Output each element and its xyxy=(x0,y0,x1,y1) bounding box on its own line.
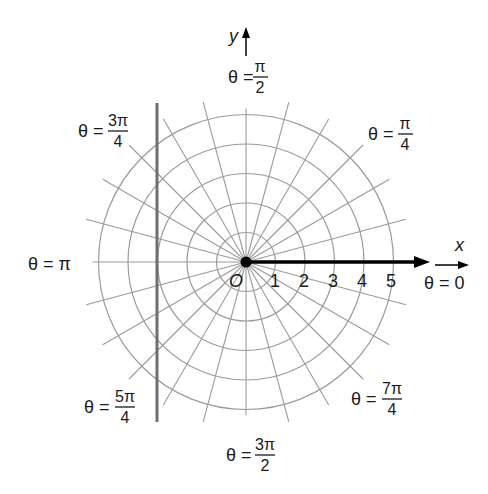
svg-text:π: π xyxy=(254,58,265,75)
angle-label-0: θ = 0 xyxy=(424,273,465,293)
grid-spoke-75deg xyxy=(246,102,289,262)
grid-spoke-60deg xyxy=(246,119,329,262)
angle-label-7pi-over-4: θ = 7π 4 xyxy=(351,380,402,418)
y-axis-arrow xyxy=(242,27,250,56)
tick-label-1: 1 xyxy=(270,271,280,291)
svg-text:5π: 5π xyxy=(115,388,135,405)
x-axis-label: x xyxy=(454,235,465,255)
svg-text:3π: 3π xyxy=(108,112,128,129)
grid-spoke-210deg xyxy=(103,262,246,345)
grid-spoke-15deg xyxy=(246,219,406,262)
angle-label-pi-over-2: θ = π 2 xyxy=(228,58,268,96)
grid-spoke-135deg xyxy=(129,145,246,262)
origin-label: O xyxy=(229,271,243,291)
svg-text:4: 4 xyxy=(114,133,123,150)
svg-text:4: 4 xyxy=(121,409,130,426)
polar-coordinate-diagram: y x O 1 2 3 4 5 θ = 0 θ = π θ = π 2 θ = … xyxy=(0,0,488,494)
grid-spoke-45deg xyxy=(246,145,363,262)
svg-text:θ =: θ = xyxy=(368,124,394,144)
angle-label-pi-over-4: θ = π 4 xyxy=(368,115,413,153)
svg-text:3π: 3π xyxy=(255,436,275,453)
angle-label-3pi-over-4: θ = 3π 4 xyxy=(78,112,128,150)
svg-text:π: π xyxy=(399,115,410,132)
tick-label-2: 2 xyxy=(299,271,309,291)
grid-spoke-300deg xyxy=(246,262,329,405)
svg-text:θ =: θ = xyxy=(84,397,110,417)
grid-spoke-30deg xyxy=(246,179,389,262)
svg-text:2: 2 xyxy=(261,457,270,474)
svg-text:θ = 0: θ = 0 xyxy=(424,273,465,293)
svg-text:θ =: θ = xyxy=(78,121,104,141)
tick-label-4: 4 xyxy=(357,271,367,291)
grid-spoke-150deg xyxy=(103,179,246,262)
y-axis-label: y xyxy=(227,26,239,46)
svg-text:θ = π: θ = π xyxy=(28,254,71,274)
grid-spoke-285deg xyxy=(246,262,289,422)
x-axis-arrow xyxy=(435,261,469,269)
svg-text:4: 4 xyxy=(388,401,397,418)
svg-text:θ =: θ = xyxy=(351,389,377,409)
polar-axis xyxy=(246,256,430,268)
svg-text:7π: 7π xyxy=(382,380,402,397)
grid-spoke-330deg xyxy=(246,262,389,345)
svg-text:θ =: θ = xyxy=(228,67,254,87)
pole-point xyxy=(241,257,252,268)
grid-spoke-120deg xyxy=(163,119,246,262)
angle-label-5pi-over-4: θ = 5π 4 xyxy=(84,388,135,426)
tick-label-5: 5 xyxy=(386,271,396,291)
svg-text:θ =: θ = xyxy=(226,445,252,465)
grid-spoke-165deg xyxy=(86,219,246,262)
grid-spoke-195deg xyxy=(86,262,246,305)
angle-label-pi: θ = π xyxy=(28,254,71,274)
svg-text:4: 4 xyxy=(401,136,410,153)
svg-text:2: 2 xyxy=(256,79,265,96)
tick-label-3: 3 xyxy=(328,271,338,291)
angle-label-3pi-over-2: θ = 3π 2 xyxy=(226,436,275,474)
grid-spoke-105deg xyxy=(203,102,246,262)
